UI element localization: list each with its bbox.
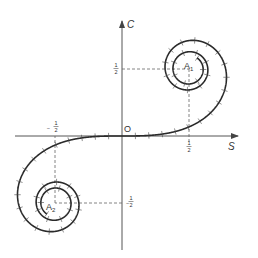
svg-text:2: 2 bbox=[114, 69, 117, 75]
y-axis-label: C bbox=[127, 19, 135, 30]
point-a1-label: A1 bbox=[184, 61, 194, 72]
x-axis-label: S bbox=[228, 141, 235, 152]
svg-text:A2: A2 bbox=[46, 202, 56, 213]
svg-text:1: 1 bbox=[114, 62, 117, 68]
origin-label: O bbox=[124, 124, 131, 134]
svg-text:A1: A1 bbox=[184, 61, 194, 72]
tick-label-x-pos: 1 2 bbox=[187, 140, 192, 153]
svg-text:2: 2 bbox=[129, 202, 132, 208]
tick-label-y-neg: − 1 2 bbox=[126, 195, 134, 208]
tick-label-y-pos: 1 2 bbox=[114, 62, 119, 75]
tick-label-x-neg: − 1 2 bbox=[47, 120, 59, 133]
svg-text:1: 1 bbox=[129, 195, 132, 201]
cornu-spiral-diagram: C S O A1 A2 1 2 − 1 2 1 2 − 1 2 bbox=[0, 0, 258, 258]
point-a2-label: A2 bbox=[46, 202, 56, 213]
svg-text:2: 2 bbox=[54, 127, 57, 133]
svg-text:1: 1 bbox=[54, 120, 57, 126]
svg-text:−: − bbox=[47, 125, 50, 131]
svg-text:2: 2 bbox=[187, 147, 190, 153]
svg-text:1: 1 bbox=[187, 140, 190, 146]
